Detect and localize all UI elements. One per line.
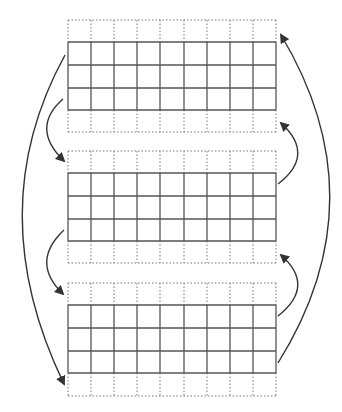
grid-bottom	[68, 283, 276, 396]
arrow-right-short-top-icon	[278, 123, 298, 184]
grid-top	[68, 20, 276, 132]
arrow-left-short-bottom-icon	[47, 230, 64, 294]
grid-middle	[68, 151, 276, 263]
arrow-left-short-top-icon	[47, 99, 64, 161]
grids-layer	[68, 20, 276, 396]
arrow-left-long-icon	[22, 55, 65, 384]
arrow-right-long-icon	[278, 35, 330, 363]
arrow-right-short-bottom-icon	[278, 255, 298, 316]
buffer-rotation-diagram	[0, 0, 342, 412]
